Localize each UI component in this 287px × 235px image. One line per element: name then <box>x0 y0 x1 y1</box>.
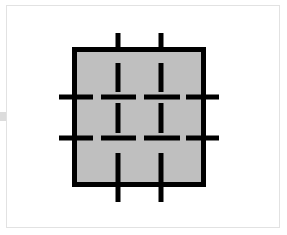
diagram-figure <box>0 0 287 235</box>
filled-square <box>75 50 204 185</box>
screenshot-canvas <box>0 0 287 235</box>
